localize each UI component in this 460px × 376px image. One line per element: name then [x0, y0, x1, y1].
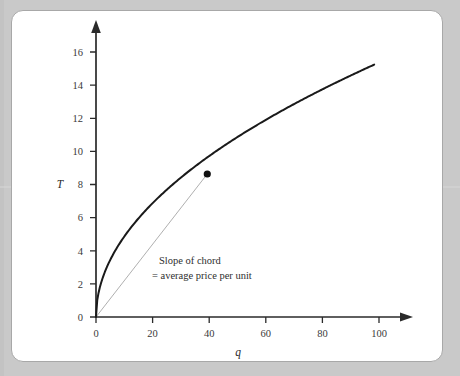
x-tick-label: 0 [93, 328, 98, 339]
x-axis-arrowhead [400, 312, 413, 321]
y-axis-arrowhead [91, 20, 101, 33]
x-tick-label: 40 [204, 328, 215, 339]
y-tick-label: 12 [73, 113, 84, 124]
chord-annotation: Slope of chord = average price per unit [152, 255, 252, 281]
x-tick-label: 60 [261, 328, 272, 339]
chord-annotation-line1: Slope of chord [159, 255, 222, 266]
chord-annotation-line2: = average price per unit [152, 270, 252, 281]
chart-canvas: 0 2 4 6 8 10 12 14 16 0 20 40 60 80 100 … [12, 11, 443, 362]
chord-endpoint-marker [204, 170, 211, 177]
page-seam-left [0, 0, 4, 376]
x-tick-label: 80 [317, 328, 328, 339]
x-tick-group: 0 20 40 60 80 100 [93, 317, 387, 339]
y-tick-label: 2 [78, 279, 83, 290]
y-tick-label: 4 [78, 246, 84, 257]
running-head [6, 0, 76, 6]
x-tick-label: 100 [371, 328, 387, 339]
x-tick-label: 20 [147, 328, 158, 339]
y-tick-label: 10 [73, 146, 84, 157]
figure-panel: 0 2 4 6 8 10 12 14 16 0 20 40 60 80 100 … [11, 10, 443, 362]
x-axis-label: q [235, 346, 241, 359]
y-tick-label: 8 [78, 179, 83, 190]
y-tick-label: 16 [73, 47, 84, 58]
y-tick-label: 6 [78, 212, 83, 223]
y-tick-label: 0 [78, 312, 83, 323]
y-axis-label: T [57, 178, 65, 190]
chord-line [96, 174, 207, 317]
axes-group [91, 20, 413, 322]
y-tick-group: 0 2 4 6 8 10 12 14 16 [73, 47, 97, 323]
y-tick-label: 14 [73, 80, 84, 91]
